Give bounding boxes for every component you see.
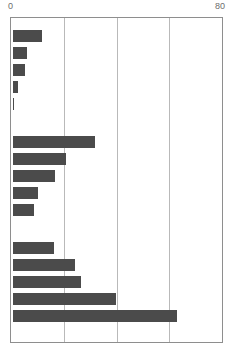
bar (13, 170, 55, 182)
bar (13, 47, 27, 59)
bar (13, 81, 18, 93)
bar (13, 276, 81, 288)
x-axis-tick-labels: 0 80 (0, 0, 230, 18)
plot-area (10, 17, 223, 343)
bar (13, 98, 14, 110)
bars-layer (11, 18, 222, 342)
x-axis-tick-label-max: 80 (215, 1, 225, 12)
bar (13, 310, 177, 322)
bar (13, 153, 66, 165)
x-axis-tick-label-min: 0 (8, 1, 13, 12)
bar (13, 64, 25, 76)
bar-chart: 0 80 (0, 0, 230, 345)
bar (13, 204, 34, 216)
bar (13, 136, 95, 148)
bar (13, 259, 75, 271)
bar (13, 293, 116, 305)
bar (13, 242, 54, 254)
bar (13, 187, 38, 199)
bar (13, 30, 42, 42)
